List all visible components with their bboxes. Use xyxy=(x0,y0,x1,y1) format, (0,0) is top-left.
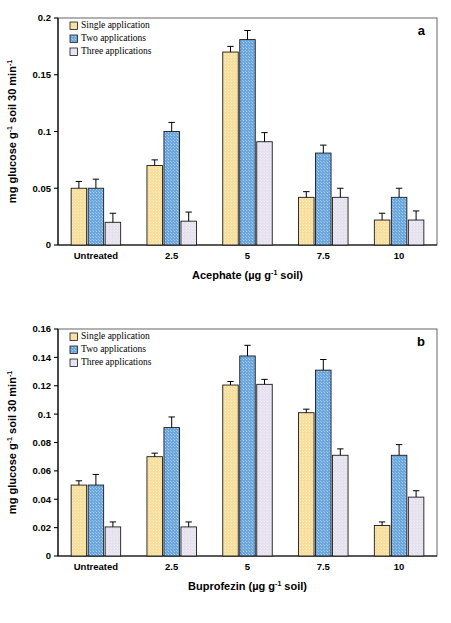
x-tick-label: 5 xyxy=(245,250,251,261)
bar xyxy=(316,153,332,245)
legend-label: Three applications xyxy=(81,46,152,56)
bar xyxy=(88,188,104,245)
y-tick-label: 0.08 xyxy=(33,437,52,448)
bar xyxy=(181,221,197,245)
legend-swatch xyxy=(70,359,78,367)
legend-swatch xyxy=(70,333,78,341)
bar xyxy=(223,52,239,245)
y-tick-label: 0 xyxy=(46,239,51,250)
y-tick-label: 0.02 xyxy=(33,522,52,533)
legend-label: Single application xyxy=(81,331,150,341)
x-tick-label: 7.5 xyxy=(317,561,331,572)
chart-panel-b: 00.020.040.060.080.10.120.140.16Untreate… xyxy=(0,311,451,622)
bar xyxy=(257,142,273,245)
bar xyxy=(391,455,407,556)
bar xyxy=(71,188,87,245)
bar xyxy=(257,384,273,556)
bar xyxy=(299,197,315,245)
figure-container: 00.050.10.150.2Untreated2.557.510Acephat… xyxy=(0,0,451,623)
y-tick-label: 0 xyxy=(46,550,51,561)
legend-swatch xyxy=(70,48,78,56)
y-tick-label: 0.12 xyxy=(33,380,52,391)
legend-swatch xyxy=(70,35,78,43)
bar xyxy=(240,40,256,245)
bar xyxy=(164,132,180,246)
y-tick-label: 0.05 xyxy=(33,183,52,194)
bar xyxy=(333,197,349,245)
y-tick-label: 0.1 xyxy=(38,409,52,420)
bar xyxy=(240,356,256,556)
legend: Single applicationTwo applicationsThree … xyxy=(70,331,152,367)
legend-label: Two applications xyxy=(81,344,146,354)
y-tick-label: 0.16 xyxy=(33,323,52,334)
y-tick-label: 0.15 xyxy=(33,69,52,80)
bar xyxy=(88,485,104,556)
bar xyxy=(408,497,424,556)
y-tick-label: 0.14 xyxy=(33,352,52,363)
x-tick-label: 7.5 xyxy=(317,250,331,261)
chart-panel-a: 00.050.10.150.2Untreated2.557.510Acephat… xyxy=(0,0,451,311)
x-tick-label: Untreated xyxy=(74,561,119,572)
legend-label: Three applications xyxy=(81,357,152,367)
bar xyxy=(105,527,121,556)
bar xyxy=(316,370,332,556)
x-tick-label: 2.5 xyxy=(165,561,179,572)
bar xyxy=(408,220,424,245)
bar xyxy=(223,385,239,556)
bar xyxy=(374,525,390,556)
legend-label: Two applications xyxy=(81,33,146,43)
bar xyxy=(181,527,197,556)
x-axis-title: Acephate (µg g-1 soil) xyxy=(192,269,303,281)
panel-letter: b xyxy=(417,334,425,349)
legend-swatch xyxy=(70,22,78,30)
y-tick-label: 0.1 xyxy=(38,126,52,137)
bar xyxy=(374,220,390,245)
x-tick-label: 5 xyxy=(245,561,251,572)
y-axis-title: mg glucose g-1 soil 30 min-1 xyxy=(6,60,18,203)
bar xyxy=(147,166,163,245)
panel-letter: a xyxy=(418,23,426,38)
bar xyxy=(391,197,407,245)
x-axis-category-labels: Untreated2.557.510 xyxy=(74,250,405,261)
y-axis-ticks: 00.050.10.150.2 xyxy=(33,12,59,250)
bar xyxy=(164,428,180,556)
y-axis-ticks: 00.020.040.060.080.10.120.140.16 xyxy=(33,323,59,561)
x-tick-label: 10 xyxy=(394,561,405,572)
x-tick-label: Untreated xyxy=(74,250,119,261)
bar xyxy=(299,413,315,556)
y-axis-title: mg glucose g-1 soil 30 min-1 xyxy=(6,371,18,514)
chart-svg-b: 00.020.040.060.080.10.120.140.16Untreate… xyxy=(0,311,451,622)
x-axis-category-labels: Untreated2.557.510 xyxy=(74,561,405,572)
bar xyxy=(333,455,349,556)
bar xyxy=(105,222,121,245)
x-tick-label: 10 xyxy=(394,250,405,261)
bar xyxy=(147,457,163,556)
y-tick-label: 0.06 xyxy=(33,465,52,476)
x-tick-label: 2.5 xyxy=(165,250,179,261)
y-tick-label: 0.2 xyxy=(38,12,51,23)
bar xyxy=(71,485,87,556)
legend: Single applicationTwo applicationsThree … xyxy=(70,20,152,56)
chart-svg-a: 00.050.10.150.2Untreated2.557.510Acephat… xyxy=(0,0,451,311)
legend-swatch xyxy=(70,346,78,354)
y-tick-label: 0.04 xyxy=(33,494,52,505)
x-axis-title: Buprofezin (µg g-1 soil) xyxy=(188,580,307,592)
legend-label: Single application xyxy=(81,20,150,30)
